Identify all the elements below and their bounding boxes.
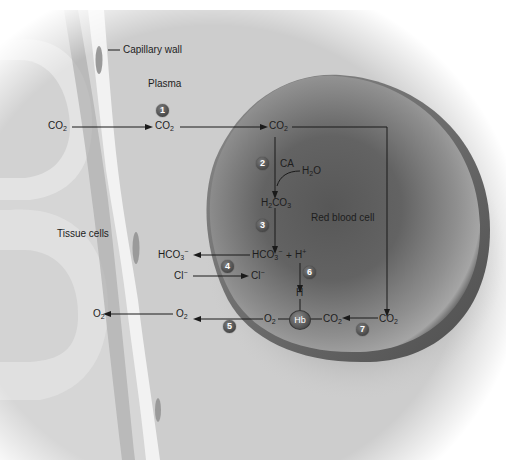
plus-sign: +: [286, 250, 292, 262]
o2-plasma-label: O2: [176, 308, 188, 320]
hco3-plasma-label: HCO3−: [158, 249, 188, 261]
carbonic-anhydrase-label: CA: [280, 158, 294, 170]
h-bound-label: H: [296, 287, 303, 299]
o2-tissue-label: O2: [93, 308, 105, 320]
step-3-badge: 3: [256, 219, 269, 232]
plasma-label: Plasma: [148, 78, 181, 90]
co2-plasma-label: CO2: [155, 120, 174, 132]
co2-rbc-top-label: CO2: [269, 120, 288, 132]
step-7-badge: 7: [356, 323, 369, 336]
o2-rbc-label: O2: [264, 313, 276, 325]
hemoglobin-badge: Hb: [289, 310, 311, 330]
h2o-label: H2O: [302, 165, 321, 177]
tissue-cells-label: Tissue cells: [57, 228, 109, 240]
step-2-badge: 2: [256, 157, 269, 170]
h-plus-label: H+: [295, 249, 306, 261]
co2-hb-label: CO2: [323, 313, 342, 325]
step-5-badge: 5: [223, 320, 236, 333]
step-4-badge: 4: [221, 260, 234, 273]
step-1-badge: 1: [156, 104, 169, 117]
co2-tissue-label: CO2: [48, 120, 67, 132]
diagram-canvas: Capillary wall Plasma Tissue cells Red b…: [0, 0, 506, 470]
red-blood-cell-label: Red blood cell: [311, 212, 374, 224]
cl-plasma-label: Cl−: [174, 270, 188, 282]
step-6-badge: 6: [303, 266, 316, 279]
h2co3-label: H2CO3: [261, 197, 291, 209]
capillary-wall-label: Capillary wall: [123, 44, 182, 56]
hco3-rbc-label: HCO3−: [252, 249, 282, 261]
cl-rbc-label: Cl−: [251, 270, 265, 282]
co2-rbc-right-label: CO2: [379, 313, 398, 325]
